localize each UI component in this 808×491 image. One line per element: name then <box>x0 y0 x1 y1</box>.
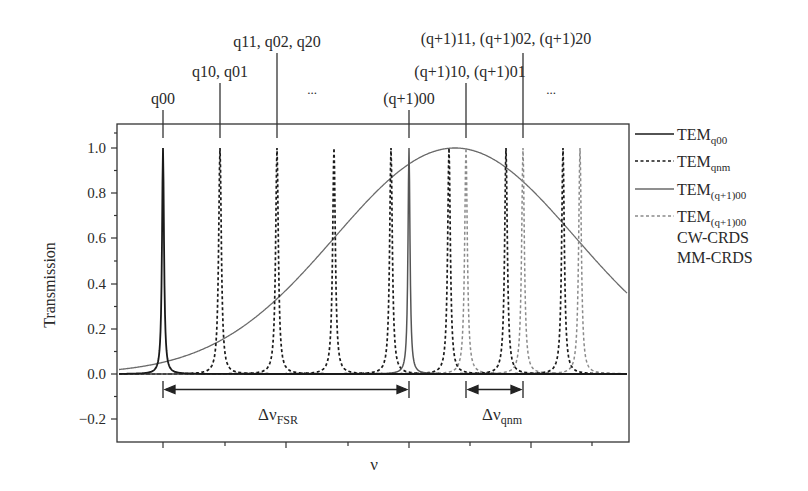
legend-item-tem-q1-00: TEM(q+1)00 <box>635 181 747 202</box>
svg-text:TEM(q+1)00: TEM(q+1)00 <box>677 208 747 229</box>
legend-item-tem-qnm: TEMqnm <box>635 153 731 173</box>
mode-label-q11: q11, q02, q20 <box>233 33 320 51</box>
transmission-chart: 1.0 0.8 0.6 0.4 0.2 0.0 −0.2 Transmissio… <box>0 0 808 491</box>
mode-peak-q1nm <box>119 148 627 374</box>
mode-label-ellipsis: ... <box>546 82 556 97</box>
mode-peak-qnm <box>119 148 627 374</box>
mode-peak-qnm <box>119 148 627 374</box>
mode-peak-qnm <box>119 148 627 374</box>
qnm-label: Δνqnm <box>482 405 523 427</box>
svg-text:TEM(q+1)00: TEM(q+1)00 <box>677 181 747 202</box>
svg-text:TEMq00: TEMq00 <box>677 126 728 146</box>
mode-peak-qnm <box>119 148 627 374</box>
mode-peak-q1nm <box>119 148 627 374</box>
mode-label-q00: q00 <box>151 90 175 108</box>
y-tick-label: 0.4 <box>87 276 106 292</box>
x-axis-label: ν <box>370 455 378 474</box>
mode-labels: q00 q10, q01 q11, q02, q20 ... (q+1)00 (… <box>151 30 591 108</box>
mode-label-q1-00: (q+1)00 <box>383 90 435 108</box>
legend-item-tem-q1-00-dashed: TEM(q+1)00 <box>635 208 747 229</box>
y-tick-label: −0.2 <box>79 411 106 427</box>
envelope-curve <box>119 148 627 370</box>
legend: TEMq00 TEMqnm TEM(q+1)00 TEM(q+1)00 CW-C… <box>635 126 753 266</box>
mode-label-q1-10: (q+1)10, (q+1)01 <box>414 63 525 81</box>
y-tick-label: 0.8 <box>87 185 106 201</box>
y-axis-label: Transmission <box>41 242 58 328</box>
y-axis <box>111 133 117 419</box>
fsr-annotation <box>163 381 409 398</box>
mode-peak-qnm <box>119 148 627 374</box>
y-tick-label: 1.0 <box>87 140 106 156</box>
y-tick-label: 0.0 <box>87 366 106 382</box>
mode-label-q10: q10, q01 <box>192 63 248 81</box>
svg-text:TEMqnm: TEMqnm <box>677 153 731 173</box>
mode-peak-qnm <box>119 148 627 374</box>
mode-label-ellipsis: ... <box>307 82 317 97</box>
plot-area <box>119 148 627 374</box>
mode-peak-q1-00 <box>119 148 627 374</box>
fsr-label: ΔνFSR <box>258 405 298 427</box>
legend-item-tem-q00: TEMq00 <box>635 126 728 146</box>
legend-item-cw-crds: CW-CRDS <box>677 229 749 246</box>
y-tick-label: 0.2 <box>87 321 106 337</box>
plot-frame <box>117 124 629 442</box>
mode-peak-q00 <box>119 148 627 374</box>
legend-item-mm-crds: MM-CRDS <box>677 249 753 266</box>
mode-label-q1-11: (q+1)11, (q+1)02, (q+1)20 <box>421 30 591 48</box>
y-tick-labels: 1.0 0.8 0.6 0.4 0.2 0.0 −0.2 <box>79 140 107 427</box>
mode-peak-qnm <box>119 148 627 374</box>
qnm-annotation <box>466 381 523 398</box>
mode-peak-q1nm <box>119 148 627 374</box>
x-axis <box>163 442 592 448</box>
y-tick-label: 0.6 <box>87 230 106 246</box>
